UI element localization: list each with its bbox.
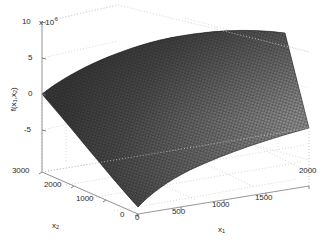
matlab-figure-window: x 106 10 5 0 -5 f(x1,x2) 3000 2000 1000 …	[0, 0, 327, 251]
y-label-sub: 2	[56, 224, 59, 230]
y-tick-1000: 1000	[76, 195, 93, 203]
z-label-sub-2: 2	[12, 90, 18, 93]
exponent-base: x 10	[39, 18, 54, 27]
y-tick-3000: 3000	[12, 167, 29, 175]
exponent-power: 6	[55, 16, 58, 22]
x-tick-1500: 1500	[255, 194, 272, 202]
x-tick-1000: 1000	[212, 201, 229, 209]
z-axis-label: f(x1,x2)	[10, 77, 19, 121]
surface-mesh	[30, 20, 320, 220]
y-axis-label: x2	[52, 222, 59, 231]
x-tick-0: 0	[135, 214, 139, 222]
z-axis-tick-marks	[42, 22, 46, 131]
x-tick-500: 500	[172, 208, 185, 216]
z-label-paren: )	[9, 87, 18, 90]
x-label-sub: 1	[222, 228, 225, 234]
x-tick-2000: 2000	[299, 167, 316, 175]
z-label-fx: f(x	[9, 102, 18, 111]
z-tick-0: 0	[28, 90, 32, 98]
y-tick-2000: 2000	[44, 181, 61, 189]
z-label-sub-1: 1	[12, 99, 18, 102]
x-axis-label: x1	[218, 226, 225, 235]
surface-plot-canvas	[0, 0, 327, 251]
z-label-comma: ,x	[9, 93, 18, 99]
z-tick-5: 5	[28, 54, 32, 62]
z-tick-10: 10	[22, 18, 31, 26]
y-tick-0: 0	[120, 211, 124, 219]
z-tick-minus5: -5	[24, 126, 31, 134]
z-axis-exponent-label: x 106	[39, 17, 58, 27]
